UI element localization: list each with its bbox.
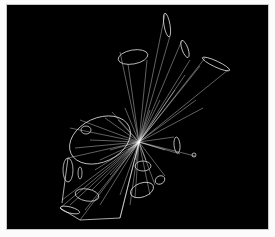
wireframe-cones-artwork xyxy=(0,0,275,237)
cone-outlines xyxy=(60,13,231,220)
